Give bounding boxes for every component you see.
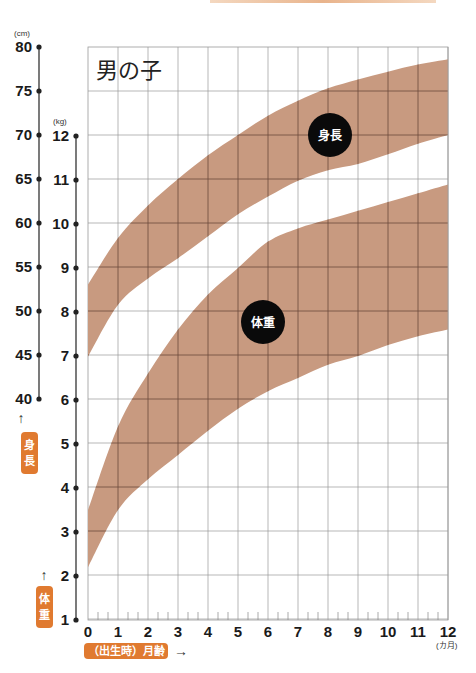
height-badge-char2: 長 <box>24 455 36 468</box>
x-tick-label: 10 <box>380 623 397 640</box>
x-tick-label: 11 <box>410 623 426 640</box>
height-tick-label: 55 <box>15 258 32 275</box>
weight-tick-label: 3 <box>61 523 69 540</box>
height-tick-label: 40 <box>15 390 32 407</box>
weight-circle-text: 体重 <box>251 315 275 330</box>
weight-tick-label: 5 <box>61 435 69 452</box>
height-badge-char1: 身 <box>24 438 35 452</box>
x-axis-ticks: 0123456789101112 <box>84 623 457 640</box>
height-axis-badge: ↑ 身 長 <box>18 410 39 474</box>
weight-axis-badge: ↑ 体 重 <box>36 567 53 628</box>
height-tick-label: 65 <box>15 170 32 187</box>
weight-tick-label: 9 <box>61 259 69 276</box>
x-tick-label: 2 <box>144 623 152 640</box>
x-tick-label: 0 <box>84 623 92 640</box>
height-tick-label: 45 <box>15 346 32 363</box>
height-band-label: 身長 <box>308 113 352 157</box>
x-tick-label: 7 <box>294 623 302 640</box>
weight-tick-label: 4 <box>61 479 70 496</box>
weight-tick-label: 11 <box>53 171 69 188</box>
weight-tick-label: 12 <box>52 127 69 144</box>
weight-tick-label: 10 <box>52 215 69 232</box>
height-tick-label: 50 <box>15 302 32 319</box>
x-tick-label: 4 <box>204 623 213 640</box>
chart-title: 男の子 <box>96 58 162 83</box>
month-unit: (カ月) <box>436 641 458 650</box>
x-tick-label: 8 <box>324 623 332 640</box>
right-arrow-icon: → <box>174 643 188 659</box>
weight-axis: 123456789101112 (kg) <box>52 117 78 628</box>
height-tick-label: 80 <box>15 38 32 55</box>
x-tick-label: 3 <box>174 623 182 640</box>
up-arrow-icon: ↑ <box>18 410 25 426</box>
height-tick-label: 75 <box>15 82 32 99</box>
up-arrow-icon: ↑ <box>41 567 48 583</box>
x-axis-badge: （出生時）月齢 → <box>84 643 188 659</box>
weight-unit: (kg) <box>53 117 67 126</box>
height-tick-label: 60 <box>15 214 32 231</box>
height-unit: (cm) <box>14 29 30 38</box>
x-tick-label: 12 <box>440 623 457 640</box>
x-tick-label: 6 <box>264 623 272 640</box>
weight-tick-label: 2 <box>61 567 69 584</box>
weight-band-label: 体重 <box>241 300 285 344</box>
growth-chart: 男の子 404550556065707580 (cm) 123456789101… <box>0 0 476 673</box>
height-tick-label: 70 <box>15 126 32 143</box>
weight-tick-label: 6 <box>61 391 69 408</box>
weight-badge-char2: 重 <box>39 608 50 622</box>
weight-badge-char1: 体 <box>39 592 51 606</box>
height-axis: 404550556065707580 (cm) <box>14 29 42 407</box>
weight-tick-label: 7 <box>61 347 69 364</box>
height-circle-text: 身長 <box>318 128 343 143</box>
x-axis-label: （出生時）月齢 <box>88 644 166 658</box>
x-tick-label: 1 <box>114 623 122 640</box>
x-tick-label: 9 <box>354 623 362 640</box>
weight-tick-label: 1 <box>61 611 69 628</box>
weight-tick-label: 8 <box>61 303 69 320</box>
x-tick-label: 5 <box>234 623 242 640</box>
